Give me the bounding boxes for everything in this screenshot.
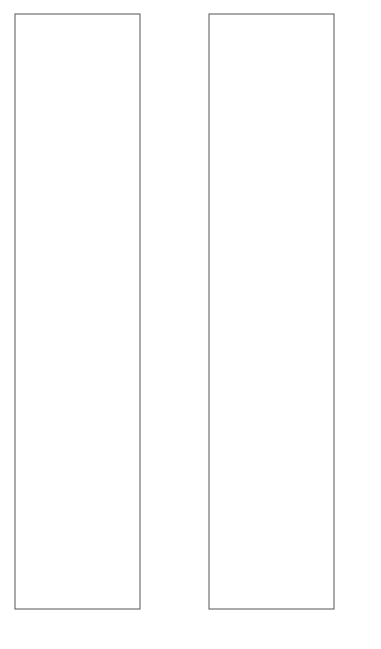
top-panel — [0, 0, 172, 649]
bottom-panel — [196, 0, 381, 649]
bottom-y-axis — [208, 609, 334, 649]
rotated-figure-canvas — [0, 0, 381, 649]
top-series-svg — [15, 14, 139, 608]
top-x-axis — [140, 13, 166, 609]
figure-landscape — [0, 0, 381, 649]
bottom-x-axis — [334, 13, 360, 609]
bottom-series-svg — [209, 14, 333, 608]
bottom-plot-area — [208, 13, 334, 609]
figure-page — [0, 0, 381, 649]
top-plot-area — [14, 13, 140, 609]
